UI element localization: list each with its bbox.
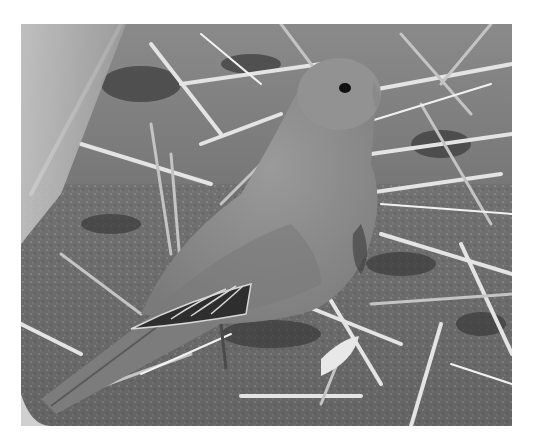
parrot-head bbox=[297, 58, 381, 130]
photo-canvas bbox=[21, 24, 512, 426]
bird-photo bbox=[21, 24, 512, 426]
parrot-eye bbox=[339, 83, 351, 93]
